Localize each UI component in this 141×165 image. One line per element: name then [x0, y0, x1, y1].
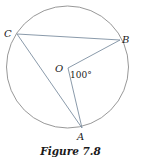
point-label-o: O — [55, 63, 63, 74]
chord-cb — [17, 34, 120, 40]
figure-caption: Figure 7.8 — [0, 145, 141, 157]
circle — [7, 6, 129, 128]
angle-label-aob: 100° — [70, 70, 92, 80]
chord-ca — [17, 34, 82, 128]
figure-7-8: C B O A 100° Figure 7.8 — [0, 0, 141, 165]
circle-diagram: C B O A 100° — [0, 0, 141, 145]
point-label-b: B — [121, 34, 129, 45]
point-label-a: A — [76, 131, 84, 142]
radius-ob — [68, 40, 120, 68]
point-label-c: C — [4, 28, 12, 39]
